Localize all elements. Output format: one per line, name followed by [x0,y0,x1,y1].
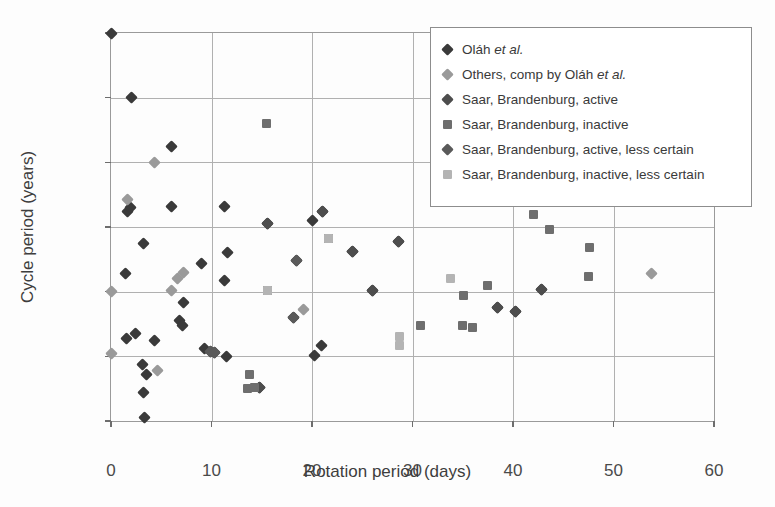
data-point [298,303,311,316]
data-point [105,285,118,298]
data-point [366,284,379,297]
legend-item[interactable]: Saar, Brandenburg, inactive [443,112,741,137]
data-point [308,349,321,362]
gridline-vertical [312,33,313,421]
y-axis-title-wrapper: Cycle period (years) [34,32,36,422]
data-point [468,323,477,332]
data-point [148,156,161,169]
legend-item[interactable]: Saar, Brandenburg, active, less certain [443,137,741,162]
legend-item[interactable]: Saar, Brandenburg, inactive, less certai… [443,162,741,187]
data-point [535,283,548,296]
data-point [218,274,231,287]
data-point [584,272,593,281]
legend-diamond-icon [441,143,454,156]
chart-legend: Oláh et al.Others, comp by Oláh et al.Sa… [430,27,752,207]
legend-diamond-icon [441,68,454,81]
legend-item-label: Saar, Brandenburg, inactive [462,117,629,132]
data-point [529,210,538,219]
data-point [458,321,467,330]
legend-square-icon [443,120,452,129]
data-point [416,321,425,330]
data-point [245,370,254,379]
x-axis-tick [110,421,111,427]
data-point [291,254,304,267]
data-point [165,140,178,153]
data-point [250,383,259,392]
legend-item-label: Saar, Brandenburg, active [462,92,618,107]
gridline-vertical [413,33,414,421]
data-point [125,91,138,104]
data-point [105,27,118,40]
data-point [545,225,554,234]
y-axis-tick [105,97,111,98]
data-point [165,284,178,297]
data-point [177,296,190,309]
data-point [306,214,319,227]
legend-item[interactable]: Others, comp by Oláh et al. [443,62,741,87]
data-point [220,350,233,363]
data-point [137,386,150,399]
data-point [218,200,231,213]
data-point [483,281,492,290]
data-point [263,286,272,295]
legend-diamond-icon [441,43,454,56]
scatter-chart-figure: 0510152025300102030405060 Cycle period (… [0,0,775,507]
x-axis-tick [512,421,513,427]
data-point [137,237,150,250]
y-axis-tick [105,162,111,163]
y-axis-tick [105,226,111,227]
data-point [395,341,404,350]
data-point [151,364,164,377]
x-axis-tick [713,421,714,427]
data-point [509,305,522,318]
data-point [492,301,505,314]
data-point [324,234,333,243]
legend-diamond-icon [441,93,454,106]
legend-item-label: Others, comp by Oláh et al. [462,67,626,82]
data-point [446,274,455,283]
x-axis-tick [211,421,212,427]
legend-item[interactable]: Saar, Brandenburg, active [443,87,741,112]
data-point [138,411,151,424]
data-point [346,245,359,258]
data-point [221,246,234,259]
data-point [288,311,301,324]
data-point [105,347,118,360]
data-point [645,267,658,280]
data-point [316,205,329,218]
gridline-vertical [212,33,213,421]
data-point [165,200,178,213]
legend-item-label: Saar, Brandenburg, inactive, less certai… [462,167,704,182]
x-axis-title: Rotation period (days) [0,462,775,482]
x-axis-tick [311,421,312,427]
data-point [119,267,132,280]
legend-item-label: Oláh et al. [462,42,524,57]
y-axis-title: Cycle period (years) [18,151,38,303]
data-point [262,119,271,128]
legend-item[interactable]: Oláh et al. [443,37,741,62]
data-point [459,291,468,300]
legend-square-icon [443,170,452,179]
legend-item-label: Saar, Brandenburg, active, less certain [462,142,694,157]
data-point [392,235,405,248]
data-point [148,334,161,347]
x-axis-tick [613,421,614,427]
x-axis-tick [412,421,413,427]
data-point [195,257,208,270]
data-point [585,243,594,252]
data-point [395,332,404,341]
